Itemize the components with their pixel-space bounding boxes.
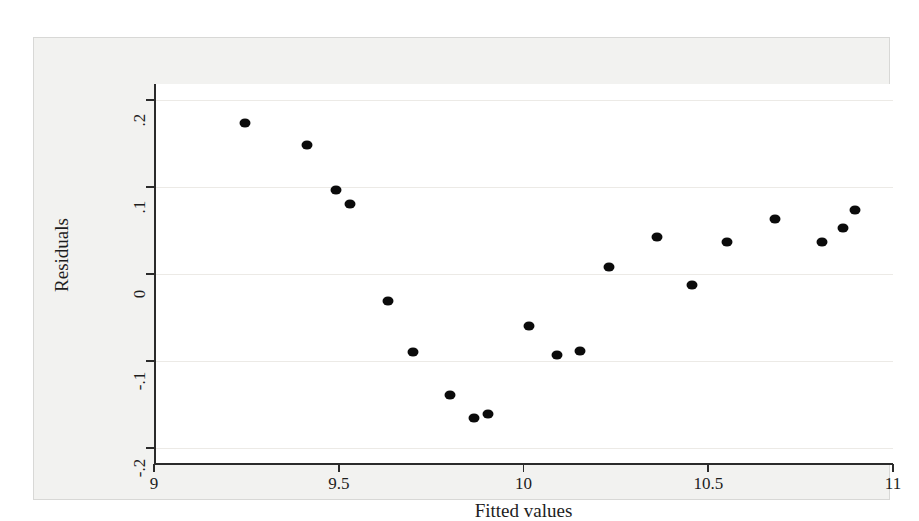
y-gridline bbox=[155, 187, 893, 188]
y-tick-label-wrap: -.1 bbox=[96, 351, 140, 371]
data-point bbox=[652, 232, 663, 241]
data-point bbox=[574, 347, 585, 356]
data-point bbox=[687, 281, 698, 290]
data-point bbox=[817, 237, 828, 246]
x-tick-label: 10 bbox=[494, 474, 554, 494]
y-gridline bbox=[155, 100, 893, 101]
x-tick-label: 11 bbox=[863, 474, 919, 494]
x-tick-label: 10.5 bbox=[678, 474, 738, 494]
y-tick-label-wrap: 0 bbox=[96, 264, 140, 284]
y-tick-label: .2 bbox=[130, 100, 150, 140]
data-point bbox=[331, 186, 342, 195]
data-point bbox=[483, 410, 494, 419]
y-tick-label: .1 bbox=[130, 187, 150, 227]
y-tick-label: 0 bbox=[130, 274, 150, 314]
y-tick-label-wrap: .2 bbox=[96, 90, 140, 110]
data-point bbox=[240, 118, 251, 127]
data-point bbox=[722, 237, 733, 246]
data-point bbox=[302, 141, 313, 150]
data-point bbox=[769, 215, 780, 224]
x-tick-label: 9 bbox=[124, 474, 184, 494]
y-tick-label-wrap: -.2 bbox=[96, 438, 140, 458]
data-point bbox=[838, 223, 849, 232]
y-tick-label-wrap: .1 bbox=[96, 177, 140, 197]
data-point bbox=[408, 348, 419, 357]
data-point bbox=[469, 413, 480, 422]
x-tick-mark bbox=[338, 464, 340, 472]
y-axis-title: Residuals bbox=[51, 165, 73, 345]
x-tick-mark bbox=[707, 464, 709, 472]
data-point bbox=[445, 390, 456, 399]
x-tick-mark bbox=[153, 464, 155, 472]
data-point bbox=[604, 263, 615, 272]
x-tick-mark bbox=[523, 464, 525, 472]
data-point bbox=[383, 296, 394, 305]
x-tick-label: 9.5 bbox=[309, 474, 369, 494]
data-point bbox=[552, 350, 563, 359]
y-gridline bbox=[155, 274, 893, 275]
y-axis-line bbox=[154, 84, 156, 464]
y-gridline bbox=[155, 448, 893, 449]
data-point bbox=[524, 322, 535, 331]
y-gridline bbox=[155, 361, 893, 362]
figure-frame: .2.10-.1-.2 99.51010.511 Residuals Fitte… bbox=[33, 37, 890, 500]
x-tick-mark bbox=[892, 464, 894, 472]
x-axis-title: Fitted values bbox=[154, 500, 893, 521]
data-point bbox=[850, 205, 861, 214]
y-tick-label: -.1 bbox=[130, 361, 150, 401]
data-point bbox=[345, 199, 356, 208]
